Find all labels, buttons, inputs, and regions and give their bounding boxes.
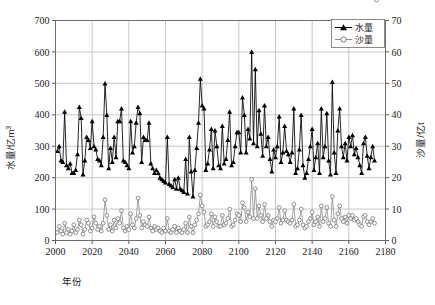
data-point-sediment	[147, 215, 151, 219]
data-point-sediment	[63, 221, 67, 225]
data-point-sediment	[330, 195, 334, 199]
data-point-sediment	[184, 221, 188, 225]
svg-text:水量/亿m3: 水量/亿m3	[5, 126, 16, 171]
data-point-sediment	[77, 218, 81, 222]
data-point-sediment	[83, 228, 87, 232]
data-point-sediment	[57, 224, 61, 228]
data-point-sediment	[198, 193, 202, 197]
y-axis-left-title: 水量/亿m3	[5, 126, 16, 171]
data-point-sediment	[281, 218, 285, 222]
x-axis-tick-label: 2100	[229, 246, 249, 257]
data-point-sediment	[220, 213, 224, 217]
data-point-sediment	[175, 231, 179, 235]
data-point-sediment	[114, 226, 118, 230]
data-point-sediment	[109, 223, 113, 227]
data-point-sediment	[275, 217, 279, 221]
data-point-sediment	[90, 226, 94, 230]
data-point-sediment	[373, 221, 377, 225]
data-point-sediment	[132, 226, 136, 230]
legend-label-sediment: 沙量	[355, 35, 373, 45]
data-point-sediment	[66, 228, 70, 232]
data-point-sediment	[228, 207, 232, 211]
data-point-sediment	[202, 210, 206, 214]
data-point-sediment	[277, 206, 281, 210]
y-axis-right-tick-label: 60	[392, 47, 402, 58]
data-point-sediment	[165, 217, 169, 221]
data-point-sediment	[257, 204, 261, 208]
data-point-sediment	[116, 217, 120, 221]
data-point-sediment	[224, 221, 228, 225]
data-point-sediment	[112, 218, 116, 222]
data-point-sediment	[134, 217, 138, 221]
data-point-sediment	[310, 210, 314, 214]
data-point-sediment	[164, 229, 168, 233]
data-point-sediment	[87, 221, 91, 225]
y-axis-right-tick-label: 40	[392, 109, 402, 120]
y-axis-left-title-superscript: 3	[5, 126, 12, 130]
open-circle-icon	[341, 37, 346, 42]
data-point-sediment	[297, 218, 301, 222]
data-point-sediment	[305, 224, 309, 228]
x-axis-tick-label: 2080	[192, 246, 212, 257]
data-point-sediment	[81, 232, 85, 236]
data-point-sediment	[105, 213, 109, 217]
data-point-sediment	[107, 228, 111, 232]
data-point-sediment	[252, 217, 256, 221]
data-point-sediment	[138, 213, 142, 217]
x-axis-tick-label: 2060	[156, 246, 176, 257]
data-point-sediment	[208, 220, 212, 224]
data-point-sediment	[242, 206, 246, 210]
data-point-sediment	[336, 212, 340, 216]
y-axis-left-tick-label: 0	[45, 235, 50, 246]
data-point-sediment	[61, 232, 65, 236]
data-point-sediment	[266, 213, 270, 217]
y-axis-right-tick-label: 50	[392, 78, 402, 89]
data-point-sediment	[268, 220, 272, 224]
data-point-sediment	[261, 220, 265, 224]
data-point-sediment	[263, 202, 267, 206]
data-point-sediment	[248, 215, 252, 219]
data-point-sediment	[334, 224, 338, 228]
y-axis-right-tick-label: 20	[392, 172, 402, 183]
legend-label-water: 水量	[355, 22, 373, 33]
y-axis-left-tick-label: 300	[35, 141, 50, 152]
data-point-sediment	[98, 224, 102, 228]
data-point-sediment	[110, 229, 114, 233]
y-axis-right-tick-label: 0	[392, 235, 397, 246]
data-point-sediment	[374, 0, 378, 2]
data-point-sediment	[231, 223, 235, 227]
data-point-sediment	[219, 224, 223, 228]
data-point-sediment	[351, 213, 355, 217]
data-point-sediment	[283, 209, 287, 213]
data-point-sediment	[325, 206, 329, 210]
data-point-sediment	[173, 224, 177, 228]
data-point-sediment	[292, 202, 296, 206]
data-point-sediment	[343, 215, 347, 219]
data-point-sediment	[314, 220, 318, 224]
data-point-sediment	[99, 229, 103, 233]
data-point-sediment	[319, 204, 323, 208]
data-point-sediment	[209, 212, 213, 216]
data-point-sediment	[363, 213, 367, 217]
x-axis-tick-label: 2180	[376, 246, 396, 257]
chart-legend: 水量 沙量	[332, 20, 385, 48]
data-point-sediment	[211, 224, 215, 228]
data-point-sediment	[151, 229, 155, 233]
data-point-sediment	[316, 215, 320, 219]
data-point-sediment	[186, 231, 190, 235]
data-point-sediment	[345, 221, 349, 225]
data-point-sediment	[239, 220, 243, 224]
y-axis-left-tick-label: 500	[35, 78, 50, 89]
data-point-sediment	[70, 229, 74, 233]
y-axis-left-tick-label: 700	[35, 15, 50, 26]
data-point-sediment	[371, 217, 375, 221]
data-point-sediment	[160, 231, 164, 235]
data-point-sediment	[136, 196, 140, 200]
x-axis-title: 年份	[62, 276, 82, 287]
data-point-sediment	[72, 223, 76, 227]
y-axis-left-tick-label: 200	[35, 172, 50, 183]
x-axis-tick-label: 2140	[302, 246, 322, 257]
data-point-sediment	[193, 223, 197, 227]
data-point-sediment	[299, 207, 303, 211]
data-point-sediment	[237, 213, 241, 217]
